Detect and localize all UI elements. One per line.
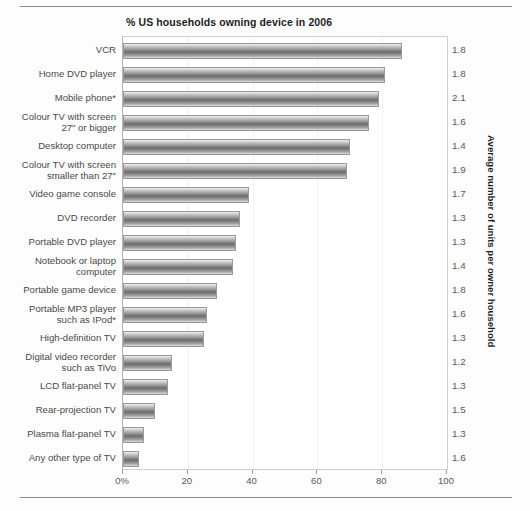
bar xyxy=(123,451,139,467)
x-tick-mark xyxy=(187,470,188,474)
bar xyxy=(123,187,249,203)
category-label: Portable DVD player xyxy=(0,236,116,247)
bar-row xyxy=(123,303,447,327)
bar xyxy=(123,43,402,59)
right-value-label: 1.8 xyxy=(452,284,486,295)
bar xyxy=(123,211,240,227)
bar xyxy=(123,91,379,107)
bar-row xyxy=(123,111,447,135)
category-label: Video game console xyxy=(0,188,116,199)
bar-row xyxy=(123,207,447,231)
category-label: High-definition TV xyxy=(0,332,116,343)
right-value-label: 1.8 xyxy=(452,68,486,79)
bar-row xyxy=(123,231,447,255)
x-tick-label: 0% xyxy=(115,475,129,486)
bar xyxy=(123,115,369,131)
right-value-label: 1.9 xyxy=(452,164,486,175)
x-tick-label: 80 xyxy=(376,475,387,486)
chart-title: % US households owning device in 2006 xyxy=(126,16,332,28)
category-label: Rear-projection TV xyxy=(0,404,116,415)
right-value-label: 1.7 xyxy=(452,188,486,199)
x-axis: 0%20406080100 xyxy=(122,470,448,492)
right-value-label: 1.6 xyxy=(452,308,486,319)
category-label: Digital video recorder such as TiVo xyxy=(0,351,116,374)
x-tick-mark xyxy=(381,470,382,474)
right-value-label: 1.3 xyxy=(452,212,486,223)
right-value-label: 1.5 xyxy=(452,404,486,415)
bar xyxy=(123,379,168,395)
right-value-label: 1.4 xyxy=(452,140,486,151)
bar xyxy=(123,427,144,443)
right-value-label: 2.1 xyxy=(452,92,486,103)
bar xyxy=(123,283,217,299)
right-axis-title: Average number of units per owner househ… xyxy=(486,135,497,151)
x-tick-label: 60 xyxy=(311,475,322,486)
bar xyxy=(123,355,172,371)
right-value-label: 1.6 xyxy=(452,116,486,127)
category-axis-labels: VCRHome DVD playerMobile phone*Colour TV… xyxy=(0,36,116,470)
category-label: Colour TV with screen smaller than 27″ xyxy=(0,159,116,182)
category-label: LCD flat-panel TV xyxy=(0,380,116,391)
bottom-divider-rule xyxy=(20,497,512,498)
bar-row xyxy=(123,39,447,63)
category-label: VCR xyxy=(0,44,116,55)
bar-row xyxy=(123,375,447,399)
x-tick-mark xyxy=(252,470,253,474)
category-label: Desktop computer xyxy=(0,140,116,151)
category-label: Notebook or laptop computer xyxy=(0,255,116,278)
right-value-labels: 1.81.82.11.61.41.91.71.31.31.41.81.61.31… xyxy=(452,36,486,470)
bar-series xyxy=(123,37,447,469)
gridline xyxy=(447,37,448,469)
category-label: Portable MP3 player such as IPod* xyxy=(0,303,116,326)
bar-row xyxy=(123,63,447,87)
x-tick-label: 100 xyxy=(438,475,454,486)
bar-row xyxy=(123,183,447,207)
bar-row xyxy=(123,447,447,470)
bar-row xyxy=(123,423,447,447)
right-value-label: 1.2 xyxy=(452,356,486,367)
x-tick-mark xyxy=(446,470,447,474)
category-label: Plasma flat-panel TV xyxy=(0,428,116,439)
bar xyxy=(123,235,236,251)
bar-row xyxy=(123,135,447,159)
right-value-label: 1.3 xyxy=(452,332,486,343)
right-value-label: 1.3 xyxy=(452,380,486,391)
right-value-label: 1.3 xyxy=(452,236,486,247)
bar-row xyxy=(123,159,447,183)
category-label: Any other type of TV xyxy=(0,452,116,463)
bar xyxy=(123,259,233,275)
category-label: Portable game device xyxy=(0,284,116,295)
bar xyxy=(123,139,350,155)
right-value-label: 1.4 xyxy=(452,260,486,271)
top-divider-rule xyxy=(20,6,512,7)
x-tick-label: 40 xyxy=(246,475,257,486)
bar xyxy=(123,67,385,83)
x-tick-mark xyxy=(316,470,317,474)
bar xyxy=(123,331,204,347)
x-tick-mark xyxy=(122,470,123,474)
right-value-label: 1.3 xyxy=(452,428,486,439)
category-label: DVD recorder xyxy=(0,212,116,223)
chart-figure: % US households owning device in 2006 VC… xyxy=(0,0,530,511)
category-label: Colour TV with screen 27″ or bigger xyxy=(0,111,116,134)
category-label: Home DVD player xyxy=(0,68,116,79)
category-label: Mobile phone* xyxy=(0,92,116,103)
x-tick-label: 20 xyxy=(182,475,193,486)
bar-row xyxy=(123,351,447,375)
right-value-label: 1.6 xyxy=(452,452,486,463)
bar-row xyxy=(123,399,447,423)
bar-row xyxy=(123,279,447,303)
bar-row xyxy=(123,87,447,111)
bar-row xyxy=(123,327,447,351)
right-value-label: 1.8 xyxy=(452,44,486,55)
bar-row xyxy=(123,255,447,279)
bar xyxy=(123,163,347,179)
bar xyxy=(123,307,207,323)
plot-area xyxy=(122,36,448,470)
bar xyxy=(123,403,155,419)
